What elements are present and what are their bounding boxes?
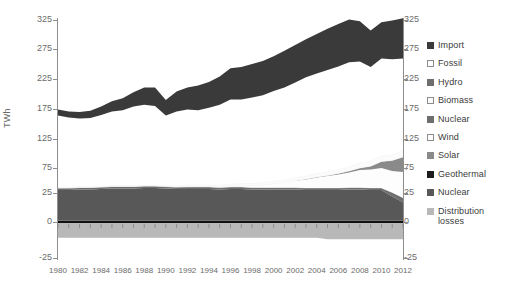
y-tick-label-left: 25 (16, 188, 52, 197)
y-tick-mark-right (404, 79, 408, 80)
stacked-area-chart: TWh 32527522517512575250-25 325275225175… (0, 0, 505, 290)
y-tick-mark-right (404, 193, 408, 194)
x-tick-label: 1994 (200, 266, 218, 275)
y-tick-label-left: 275 (16, 44, 52, 53)
legend-swatch-icon (427, 152, 434, 159)
legend-label: Nuclear (438, 187, 470, 197)
chart-legend: ImportFossilHydroBiomassNuclearWindSolar… (427, 40, 505, 233)
y-tick-mark-right (404, 49, 408, 50)
legend-swatch-icon (427, 189, 434, 196)
x-tick-label: 2006 (329, 266, 347, 275)
y-tick-label-left: 125 (16, 134, 52, 143)
x-tick-label: 1986 (114, 266, 132, 275)
y-tick-mark-right (404, 109, 408, 110)
y-tick-mark-left (53, 168, 57, 169)
x-tick-label: 2002 (286, 266, 304, 275)
legend-swatch-icon (427, 79, 434, 86)
legend-label: Wind (438, 132, 459, 142)
legend-swatch-icon (427, 42, 434, 49)
legend-swatch-icon (427, 116, 434, 123)
y-tick-label-left: -25 (16, 253, 52, 262)
legend-swatch-icon (427, 60, 434, 67)
y-tick-label-right: -25 (404, 253, 440, 262)
legend-item-hydro[interactable]: Hydro (427, 77, 505, 88)
y-tick-mark-left (53, 49, 57, 50)
x-tick-label: 1982 (71, 266, 89, 275)
legend-label: Import (438, 40, 464, 50)
x-tick-label: 1996 (222, 266, 240, 275)
y-tick-label-left: 175 (16, 104, 52, 113)
y-tick-mark-left (53, 79, 57, 80)
plot-svg (58, 18, 403, 258)
area-series-nuclear (58, 188, 403, 221)
legend-item-biomass[interactable]: Biomass (427, 95, 505, 106)
x-tick-label: 1998 (243, 266, 261, 275)
x-tick-label: 1988 (135, 266, 153, 275)
legend-swatch-icon (427, 134, 434, 141)
legend-swatch-icon (427, 171, 434, 178)
legend-item-nuclear[interactable]: Nuclear (427, 187, 505, 198)
plot-area (58, 18, 403, 258)
y-tick-mark-left (53, 222, 57, 223)
y-tick-label-left: 0 (16, 217, 52, 226)
y-tick-mark-left (53, 193, 57, 194)
y-tick-label-left: 325 (16, 15, 52, 24)
legend-item-distribution-losses[interactable]: Distribution losses (427, 206, 505, 226)
x-tick-label: 2008 (351, 266, 369, 275)
x-tick-label: 2004 (308, 266, 326, 275)
legend-item-geothermal[interactable]: Geothermal (427, 169, 505, 180)
y-tick-mark-left (53, 258, 57, 259)
y-tick-mark-right (404, 139, 408, 140)
legend-item-nuclear[interactable]: Nuclear (427, 114, 505, 125)
legend-label: Nuclear (438, 114, 470, 124)
legend-label: Geothermal (438, 169, 486, 179)
x-tick-label: 1984 (92, 266, 110, 275)
legend-label: Fossil (438, 58, 462, 68)
y-tick-label-right: 325 (404, 15, 440, 24)
legend-item-fossil[interactable]: Fossil (427, 58, 505, 69)
legend-label: Solar (438, 150, 460, 160)
x-axis-ticks: 1980198219841986198819901992199419961998… (58, 266, 403, 280)
y-axis-title: TWh (2, 108, 12, 128)
y-tick-label-left: 225 (16, 74, 52, 83)
y-tick-mark-right (404, 168, 408, 169)
x-tick-label: 1992 (178, 266, 196, 275)
y-tick-mark-right (404, 222, 408, 223)
x-tick-label: 2010 (373, 266, 391, 275)
y-tick-mark-left (53, 20, 57, 21)
legend-swatch-icon (427, 208, 434, 215)
legend-swatch-icon (427, 97, 434, 104)
legend-item-import[interactable]: Import (427, 40, 505, 51)
legend-label: Biomass (438, 95, 473, 105)
x-tick-label: 2012 (394, 266, 412, 275)
y-tick-label-left: 75 (16, 163, 52, 172)
y-tick-mark-left (53, 109, 57, 110)
y-tick-mark-right (404, 258, 408, 259)
x-tick-label: 1990 (157, 266, 175, 275)
legend-label: Hydro (438, 77, 463, 87)
y-tick-mark-right (404, 20, 408, 21)
legend-item-solar[interactable]: Solar (427, 150, 505, 161)
y-axis-left-ticks: 32527522517512575250-25 (16, 0, 52, 290)
x-tick-label: 1980 (49, 266, 67, 275)
y-tick-mark-left (53, 139, 57, 140)
legend-item-wind[interactable]: Wind (427, 132, 505, 143)
legend-label: Distribution losses (438, 206, 505, 226)
x-tick-label: 2000 (265, 266, 283, 275)
